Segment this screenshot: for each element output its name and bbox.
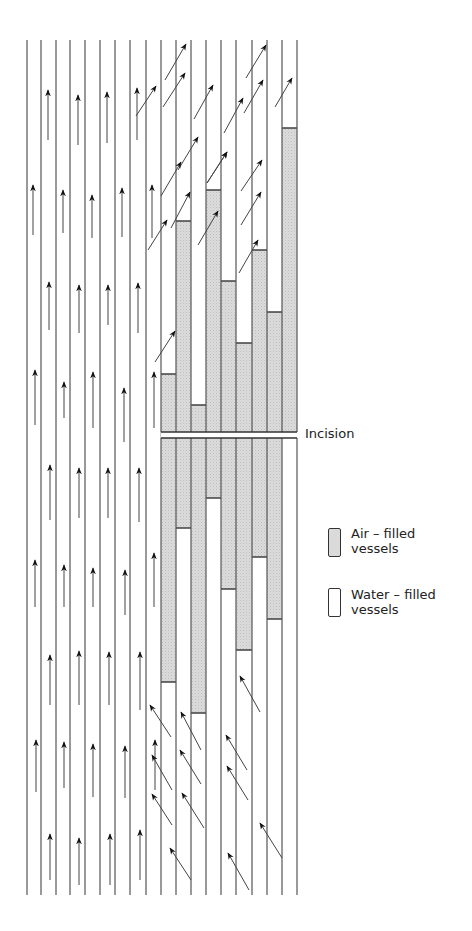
- flow-arrow-diagonal-down: [260, 823, 282, 858]
- flow-arrow-diagonal-down: [182, 793, 204, 828]
- air-filled-vessel: [252, 250, 267, 557]
- flow-arrow-diagonal-up: [194, 85, 213, 119]
- air-filled-vessels: [161, 128, 297, 713]
- flow-arrow-diagonal-up: [161, 162, 181, 196]
- flow-arrow-diagonal-up: [178, 137, 198, 170]
- xylem-diagram: [0, 0, 472, 931]
- flow-arrow-diagonal-down: [227, 766, 248, 800]
- air-filled-vessel: [206, 190, 221, 498]
- flow-arrow-diagonal-up: [207, 152, 227, 183]
- flow-arrow-diagonal-up: [155, 331, 175, 362]
- legend-water-label-1: Water – filled: [351, 587, 436, 602]
- flow-arrow-diagonal-down: [152, 794, 172, 825]
- incision-label: Incision: [305, 426, 354, 441]
- air-filled-vessel: [282, 128, 297, 438]
- legend-air-label-2: vessels: [351, 541, 399, 556]
- flow-arrow-diagonal-up: [224, 98, 243, 133]
- flow-arrow-diagonal-up: [275, 78, 292, 107]
- flow-arrow-diagonal-up: [246, 45, 266, 78]
- flow-arrow-diagonal-down: [240, 676, 260, 712]
- legend-air-swatch: [328, 528, 341, 557]
- flow-arrow-diagonal-down: [170, 848, 191, 880]
- flow-arrow-diagonal-up: [148, 220, 167, 250]
- air-filled-vessel: [191, 405, 206, 713]
- air-filled-vessel: [236, 343, 252, 650]
- legend-air-label-1: Air – filled: [351, 526, 415, 541]
- incision: [161, 432, 299, 438]
- flow-arrow-diagonal-up: [244, 80, 263, 113]
- incision-cut: [161, 432, 299, 438]
- air-filled-vessel: [161, 374, 176, 682]
- air-filled-vessel: [176, 221, 191, 528]
- legend-water-label-2: vessels: [351, 602, 399, 617]
- flow-arrow-diagonal-up: [241, 192, 261, 225]
- flow-arrow-diagonal-down: [228, 853, 249, 890]
- legend-water-swatch: [328, 588, 341, 617]
- air-filled-vessel: [267, 312, 282, 619]
